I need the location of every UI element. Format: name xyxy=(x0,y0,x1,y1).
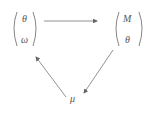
right-vector-bottom: θ xyxy=(125,34,130,45)
bottom-node-mu: μ xyxy=(69,93,75,104)
left-vector-top: θ xyxy=(22,13,27,24)
left-vector: θ ω xyxy=(14,12,36,46)
arrow-right-to-mu xyxy=(84,50,113,93)
left-paren xyxy=(14,12,17,46)
right-vector: M θ xyxy=(116,12,142,46)
right-paren xyxy=(33,12,36,46)
diagram-canvas: θ ω M θ μ xyxy=(0,0,152,115)
left-vector-bottom: ω xyxy=(21,34,28,45)
left-paren xyxy=(116,12,119,46)
arrow-mu-to-left xyxy=(36,57,66,97)
right-vector-top: M xyxy=(122,13,132,24)
right-paren xyxy=(139,12,142,46)
